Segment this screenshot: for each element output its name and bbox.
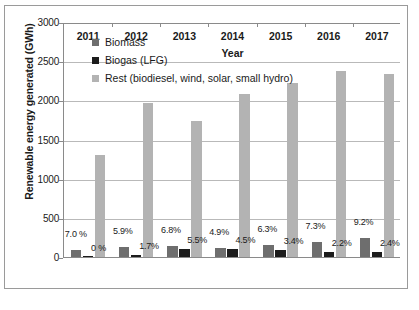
- legend-label-rest: Rest (biodiesel, wind, solar, small hydr…: [105, 73, 293, 84]
- data-label-biogas: 2.2%: [332, 239, 352, 248]
- bar-biomass: [215, 248, 226, 257]
- bar-rest: [143, 103, 154, 257]
- bar-rest: [336, 71, 347, 257]
- x-tick-mark: [305, 23, 306, 27]
- bar-biomass: [167, 246, 178, 257]
- y-tick-label: 2000: [19, 96, 59, 106]
- bar-biomass: [312, 242, 323, 257]
- data-label-biogas: 1.7%: [139, 242, 159, 251]
- gridline: [64, 23, 400, 24]
- data-label-biogas: 5.5%: [187, 236, 207, 245]
- legend-swatch-rest: [92, 75, 99, 82]
- x-tick-mark: [112, 23, 113, 27]
- bar-biomass: [119, 247, 130, 257]
- x-tick-mark: [208, 23, 209, 27]
- data-label-biomass: 6.8%: [161, 226, 181, 235]
- bar-biomass: [360, 238, 371, 257]
- plot-area: 7.0 %0 %5.9%1.7%6.8%5.5%4.9%4.5%6.3%3.4%…: [63, 23, 400, 258]
- y-tick-label: 0: [19, 253, 59, 263]
- data-label-biomass: 9.2%: [354, 218, 374, 227]
- data-label-biogas: 3.4%: [284, 237, 304, 246]
- data-label-biomass: 7.0 %: [65, 230, 87, 239]
- bar-rest: [287, 83, 298, 257]
- data-label-biomass: 5.9%: [113, 227, 133, 236]
- bar-biogas: [372, 252, 383, 257]
- data-label-biogas: 2.4%: [380, 239, 400, 248]
- legend-swatch-biogas: [92, 57, 99, 64]
- gridline: [64, 141, 400, 142]
- y-tick-mark: [59, 258, 63, 259]
- bar-biomass: [263, 245, 274, 257]
- chart-frame: Renewable energy generated (GWh) 0500100…: [4, 5, 408, 289]
- legend-swatch-biomass: [92, 39, 99, 46]
- legend-label-biogas: Biogas (LFG): [105, 55, 167, 66]
- y-tick-label: 1500: [19, 136, 59, 146]
- gridline: [64, 180, 400, 181]
- legend-item: Rest (biodiesel, wind, solar, small hydr…: [92, 71, 293, 86]
- bar-biogas: [179, 249, 190, 257]
- bar-rest: [384, 74, 395, 257]
- y-tick-label: 500: [19, 214, 59, 224]
- data-label-biomass: 7.3%: [306, 222, 326, 231]
- data-label-biogas: 0 %: [91, 244, 106, 253]
- y-tick-label: 2500: [19, 57, 59, 67]
- legend-label-biomass: Biomass: [105, 37, 145, 48]
- bar-biogas: [131, 255, 142, 257]
- data-label-biomass: 4.9%: [209, 228, 229, 237]
- x-tick-mark: [257, 23, 258, 27]
- x-tick-mark: [353, 23, 354, 27]
- y-tick-label: 3000: [19, 18, 59, 28]
- bar-biogas: [83, 256, 94, 257]
- legend-item: Biomass: [92, 35, 293, 50]
- y-tick-label: 1000: [19, 175, 59, 185]
- bar-biogas: [324, 252, 335, 257]
- data-label-biomass: 6.3%: [257, 225, 277, 234]
- legend: Biomass Biogas (LFG) Rest (biodiesel, wi…: [92, 35, 293, 89]
- x-tick-label-2017: 2017: [347, 31, 407, 42]
- data-label-biogas: 4.5%: [236, 236, 256, 245]
- bar-rest: [95, 155, 106, 257]
- bar-rest: [239, 94, 250, 257]
- legend-item: Biogas (LFG): [92, 53, 293, 68]
- x-tick-mark: [160, 23, 161, 27]
- bar-biogas: [275, 250, 286, 257]
- bar-biomass: [71, 250, 82, 257]
- bar-biogas: [227, 249, 238, 257]
- gridline: [64, 101, 400, 102]
- gridline: [64, 219, 400, 220]
